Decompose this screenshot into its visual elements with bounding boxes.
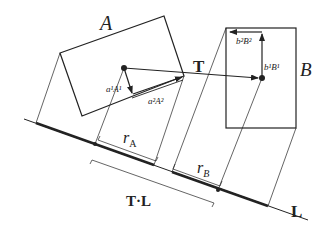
proj-line-b-center [218,78,262,190]
translation-vector-t [124,68,258,78]
label-radius-b: rB [197,159,209,179]
radius-a-tick-left [98,136,100,140]
proj-line-a-center [95,68,124,144]
projection-extent-b [172,172,268,206]
label-a1-vector: a¹A¹ [106,84,122,94]
proj-line-a-left [36,53,60,123]
label-axis-l: L [291,202,302,221]
label-translation-t: T [193,57,205,76]
tl-tick-right [212,203,214,207]
vector-a1 [124,68,132,93]
separating-axis-diagram: A B T L T·L rA rB a¹A¹ a²A² b¹B¹ b²B² [0,0,328,237]
label-projection-tl: T·L [126,193,151,209]
label-box-b: B [300,59,312,80]
label-b2-vector: b²B² [236,36,252,46]
proj-line-b-left [172,28,226,172]
tl-tick-left [90,160,92,164]
label-b1-vector: b¹B¹ [264,62,280,72]
label-radius-a: rA [123,129,137,149]
label-a2-vector: a²A² [148,96,164,106]
center-a-projection-dot [93,142,97,146]
proj-line-b-right [268,128,296,206]
vector-a2 [133,77,182,94]
label-box-a: A [98,12,113,34]
radius-b-tick-left [173,164,175,169]
center-b-projection-dot [216,188,220,192]
